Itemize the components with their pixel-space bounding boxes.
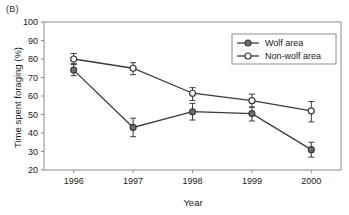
data-point [308, 147, 314, 153]
x-tick-label: 1999 [242, 176, 262, 186]
y-tick-label: 40 [28, 128, 38, 138]
data-point [130, 65, 136, 71]
x-tick-label: 1998 [182, 176, 202, 186]
figure-panel-b: (B) Time spent foraging (%) Year 2030405… [0, 0, 349, 215]
data-point [71, 67, 77, 73]
data-point [249, 98, 255, 104]
line-chart: 2030405060708090100 19961997199819992000… [0, 0, 349, 215]
series-wolf-area [71, 65, 315, 158]
data-point [190, 109, 196, 115]
chart-legend: Wolf areaNon-wolf area [232, 34, 336, 64]
x-tick-label: 1996 [64, 176, 84, 186]
y-tick-label: 30 [28, 147, 38, 157]
y-tick-label: 60 [28, 91, 38, 101]
y-tick-label: 100 [23, 17, 38, 27]
data-point [130, 124, 136, 130]
data-point [308, 108, 314, 114]
y-axis-ticks: 2030405060708090100 [23, 17, 44, 175]
x-tick-label: 2000 [301, 176, 321, 186]
legend-label: Wolf area [265, 38, 303, 48]
y-tick-label: 50 [28, 110, 38, 120]
y-tick-label: 90 [28, 36, 38, 46]
x-axis-ticks: 19961997199819992000 [64, 170, 322, 186]
y-tick-label: 20 [28, 165, 38, 175]
x-tick-label: 1997 [123, 176, 143, 186]
data-point [190, 90, 196, 96]
data-point [71, 56, 77, 62]
data-series-layer [71, 53, 315, 157]
legend-label: Non-wolf area [265, 51, 321, 61]
y-tick-label: 70 [28, 73, 38, 83]
y-tick-label: 80 [28, 54, 38, 64]
data-point [249, 111, 255, 117]
